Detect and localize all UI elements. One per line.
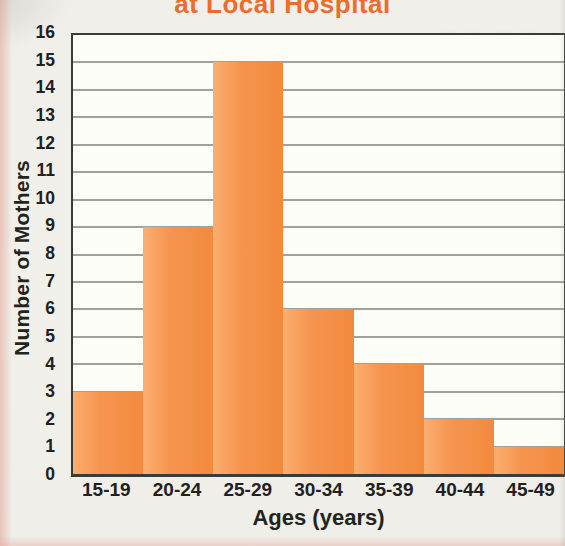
bar-45-49 (494, 447, 564, 474)
scanned-book-page: at Local Hospital Number of Mothers 0123… (0, 0, 565, 546)
bar-30-34 (283, 309, 353, 474)
x-axis-title: Ages (years) (71, 505, 565, 531)
x-tick-label-25-29: 25-29 (223, 479, 272, 501)
scan-edge-bottom (0, 536, 565, 546)
y-tick-label-0: 0 (45, 464, 55, 485)
bar-series (73, 35, 564, 474)
bar-40-44 (424, 419, 494, 474)
plot-area (71, 33, 565, 477)
y-tick-label-1: 1 (45, 436, 55, 457)
bar-35-39 (354, 364, 424, 474)
y-tick-label-15: 15 (36, 50, 55, 71)
y-tick-label-5: 5 (45, 326, 55, 347)
y-tick-label-11: 11 (37, 160, 56, 181)
bar-25-29 (213, 62, 283, 474)
y-tick-label-2: 2 (45, 409, 55, 430)
y-tick-label-3: 3 (45, 381, 55, 402)
x-tick-label-45-49: 45-49 (506, 479, 555, 501)
y-tick-label-10: 10 (36, 188, 55, 209)
x-tick-label-40-44: 40-44 (436, 479, 485, 501)
y-tick-label-13: 13 (36, 105, 55, 126)
x-tick-label-30-34: 30-34 (294, 479, 343, 501)
y-tick-label-9: 9 (45, 215, 55, 236)
y-tick-label-16: 16 (36, 22, 55, 43)
bar-20-24 (143, 227, 213, 474)
x-axis-tick-labels: 15-1920-2425-2930-3435-3940-4445-49 (71, 479, 565, 503)
x-tick-label-35-39: 35-39 (365, 479, 414, 501)
y-tick-label-4: 4 (45, 354, 55, 375)
y-tick-label-6: 6 (45, 298, 55, 319)
y-tick-label-8: 8 (45, 243, 55, 264)
chart-title: at Local Hospital (0, 0, 565, 20)
bar-15-19 (73, 392, 143, 474)
y-tick-label-14: 14 (36, 77, 55, 98)
x-tick-label-20-24: 20-24 (153, 479, 202, 501)
x-tick-label-15-19: 15-19 (82, 479, 131, 501)
y-tick-label-7: 7 (45, 271, 55, 292)
y-axis-tick-labels: 012345678910111213141516 (0, 33, 64, 475)
y-tick-label-12: 12 (36, 133, 55, 154)
